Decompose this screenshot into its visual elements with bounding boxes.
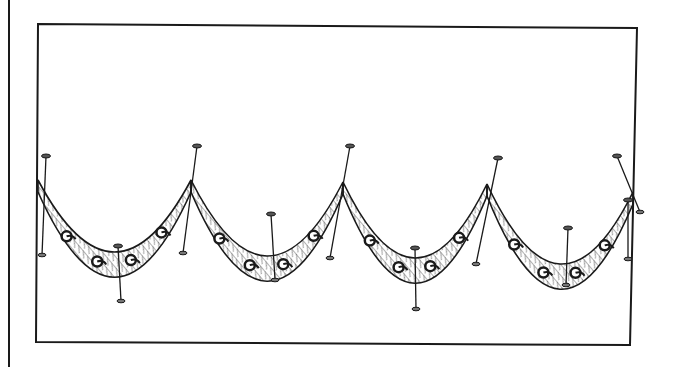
swag-garland xyxy=(38,180,633,289)
pin-head-icon xyxy=(193,144,202,148)
pin-base-icon xyxy=(412,307,420,311)
pin-base-icon xyxy=(271,278,279,282)
pin-shaft xyxy=(415,248,416,309)
pin-base-icon xyxy=(38,253,46,257)
pin-head-icon xyxy=(494,156,503,160)
pin-base-icon xyxy=(326,256,334,260)
pin-head-icon xyxy=(624,198,633,202)
pin-head-icon xyxy=(564,226,573,230)
pin-base-icon xyxy=(562,283,570,287)
pin-head-icon xyxy=(411,246,420,250)
pin-base-icon xyxy=(472,262,480,266)
pin-base-icon xyxy=(179,251,187,255)
frame-border xyxy=(36,24,637,345)
pin-base-icon xyxy=(636,210,644,214)
pin-base-icon xyxy=(117,299,125,303)
pin-head-icon xyxy=(42,154,51,158)
swag-scallop xyxy=(191,180,343,281)
pin-head-icon xyxy=(613,154,622,158)
pin-base-icon xyxy=(624,257,632,261)
swag-scallop xyxy=(38,180,191,277)
pin-head-icon xyxy=(346,144,355,148)
swag-garland-illustration xyxy=(0,0,679,367)
picture-frame xyxy=(36,24,637,345)
swag-scallop xyxy=(487,184,633,289)
pin-head-icon xyxy=(267,212,276,216)
pin-head-icon xyxy=(114,244,123,248)
